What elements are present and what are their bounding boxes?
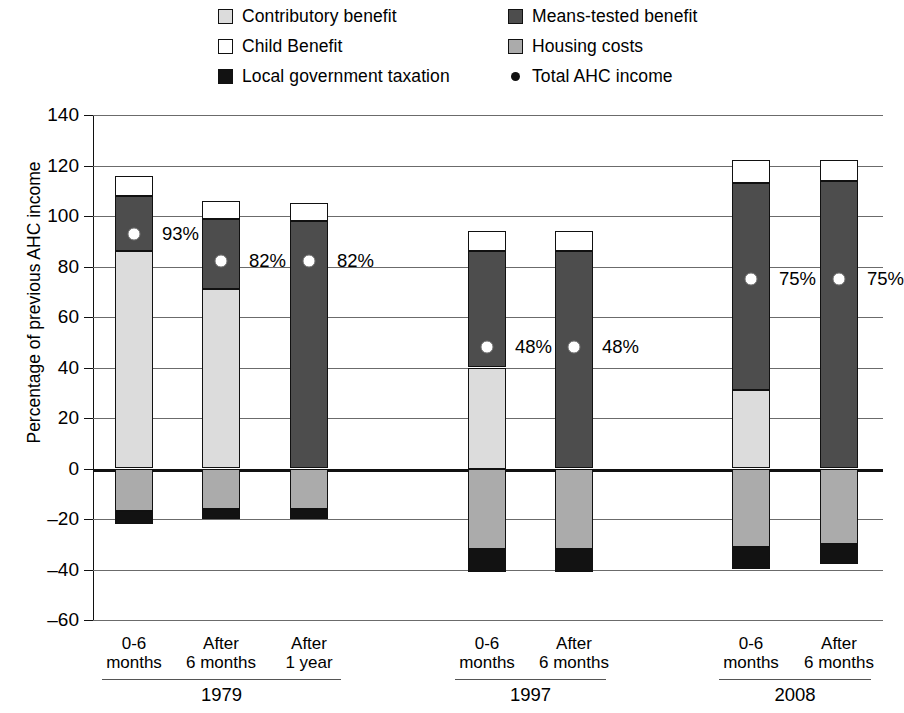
y-axis-tick-label: –40 <box>47 558 79 580</box>
bar-segment-housing <box>290 469 328 509</box>
y-axis-tick <box>84 216 93 217</box>
chart-legend: Contributory benefitMeans-tested benefit… <box>218 8 838 98</box>
legend-label: Contributory benefit <box>242 8 397 26</box>
legend-row: Child BenefitHousing costs <box>218 38 838 68</box>
bar-segment-child <box>468 231 506 251</box>
legend-swatch-icon <box>218 39 233 54</box>
group-label: 1997 <box>455 684 606 706</box>
ahc-income-dot <box>745 273 758 286</box>
legend-item-ahc: Total AHC income <box>508 68 673 86</box>
bar-segment-housing <box>115 469 153 512</box>
legend-item-child: Child Benefit <box>218 38 508 56</box>
bar-segment-taxation <box>202 509 240 519</box>
bar-stack <box>115 115 153 620</box>
y-axis-tick <box>84 570 93 571</box>
y-axis-tick <box>84 267 93 268</box>
x-axis-category-line: 6 months <box>519 653 629 672</box>
bar-segment-child <box>555 231 593 251</box>
bar-segment-means <box>555 251 593 468</box>
bar-segment-taxation <box>732 547 770 570</box>
y-axis-title: Percentage of previous AHC income <box>24 93 45 513</box>
y-axis-tick-label: 120 <box>47 154 79 176</box>
legend-swatch-icon <box>218 9 233 24</box>
x-axis-category-line: After <box>784 634 894 653</box>
bar-segment-contributory <box>115 251 153 468</box>
legend-label: Total AHC income <box>532 68 673 86</box>
bar-segment-contributory <box>202 289 240 468</box>
y-axis-tick <box>84 519 93 520</box>
bar-segment-means <box>202 219 240 290</box>
y-axis-tick <box>84 317 93 318</box>
bar-segment-means <box>115 196 153 252</box>
bar-segment-housing <box>468 469 506 550</box>
y-axis-tick <box>84 620 93 621</box>
bar-stack <box>820 115 858 620</box>
ahc-income-dot <box>128 227 141 240</box>
legend-item-taxation: Local government taxation <box>218 68 508 86</box>
y-axis-tick-label: 40 <box>58 356 79 378</box>
x-axis-category-line: 1 year <box>254 653 364 672</box>
bar-segment-means <box>732 183 770 390</box>
bar-stack <box>202 115 240 620</box>
y-axis-tick <box>84 166 93 167</box>
ahc-income-label: 82% <box>337 250 374 272</box>
bar-segment-taxation <box>820 544 858 564</box>
x-axis-category-label: After6 months <box>784 634 894 672</box>
bar-segment-housing <box>820 469 858 545</box>
y-axis-tick-label: 20 <box>58 407 79 429</box>
x-axis-category-line: 6 months <box>784 653 894 672</box>
bar-segment-taxation <box>555 549 593 572</box>
bar-segment-child <box>202 201 240 219</box>
x-axis-category-label: After6 months <box>519 634 629 672</box>
y-axis-tick <box>84 418 93 419</box>
y-axis-tick-label: –20 <box>47 508 79 530</box>
ahc-income-label: 48% <box>602 336 639 358</box>
y-axis-tick-label: –60 <box>47 609 79 631</box>
legend-row: Contributory benefitMeans-tested benefit <box>218 8 838 38</box>
group-rule <box>719 679 871 680</box>
bar-segment-contributory <box>468 368 506 469</box>
bar-segment-housing <box>732 469 770 547</box>
bar-segment-taxation <box>290 509 328 519</box>
legend-item-contributory: Contributory benefit <box>218 8 508 26</box>
ahc-income-dot <box>833 273 846 286</box>
legend-item-housing: Housing costs <box>508 38 643 56</box>
x-axis-category-line: After <box>519 634 629 653</box>
legend-label: Local government taxation <box>242 68 450 86</box>
bar-segment-taxation <box>468 549 506 572</box>
bar-segment-child <box>732 160 770 183</box>
legend-swatch-icon <box>508 39 523 54</box>
legend-label: Child Benefit <box>242 38 343 56</box>
y-axis-tick <box>84 115 93 116</box>
legend-swatch-icon <box>218 69 233 84</box>
bar-stack <box>732 115 770 620</box>
bar-segment-housing <box>202 469 240 509</box>
bar-segment-child <box>115 176 153 196</box>
group-rule <box>455 679 606 680</box>
ahc-income-dot <box>303 255 316 268</box>
ahc-income-label: 75% <box>779 268 816 290</box>
ahc-income-label: 93% <box>162 223 199 245</box>
legend-row: Local government taxationTotal AHC incom… <box>218 68 838 98</box>
x-axis-category-line: After <box>254 634 364 653</box>
y-axis-tick-label: 140 <box>47 104 79 126</box>
group-label: 2008 <box>719 684 871 706</box>
ahc-income-dot <box>215 255 228 268</box>
bar-stack <box>290 115 328 620</box>
legend-dot-icon <box>508 69 523 84</box>
legend-item-means: Means-tested benefit <box>508 8 697 26</box>
y-axis-tick-label: 80 <box>58 255 79 277</box>
bar-segment-means <box>820 181 858 469</box>
bar-stack <box>468 115 506 620</box>
bar-stack <box>555 115 593 620</box>
plot-area: 140120100806040200–20–40–6093%0-6months8… <box>93 115 883 620</box>
y-axis-tick-label: 100 <box>47 205 79 227</box>
group-label: 1979 <box>102 684 341 706</box>
legend-label: Housing costs <box>532 38 643 56</box>
x-axis-category-label: After1 year <box>254 634 364 672</box>
ahc-income-label: 82% <box>249 250 286 272</box>
ahc-income-label: 75% <box>867 268 904 290</box>
legend-label: Means-tested benefit <box>532 8 697 26</box>
bar-segment-contributory <box>732 390 770 468</box>
bar-segment-child <box>820 160 858 180</box>
